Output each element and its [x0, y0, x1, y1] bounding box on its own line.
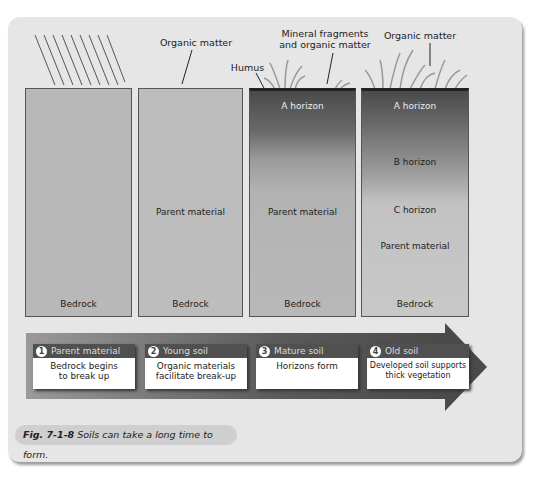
mineral-fragments-line1: Mineral fragments [270, 28, 380, 39]
parent-material-label: Parent material [362, 241, 468, 251]
figure-number: Fig. 7-1-8 [23, 429, 74, 440]
stage-desc-line1: Bedrock begins [33, 361, 135, 371]
stage-number: 1 [36, 346, 47, 357]
stage-desc-line2: facilitate break-up [145, 371, 247, 381]
grass-icon [365, 45, 470, 90]
organic-matter-label-2: Organic matter [375, 30, 465, 41]
bedrock-label: Bedrock [139, 299, 242, 309]
stage-desc-line2: to break up [33, 371, 135, 381]
stage-desc-line1: Organic materials [145, 361, 247, 371]
stage-title: Mature soil [274, 346, 324, 356]
mineral-fragments-label: Mineral fragments and organic matter [270, 28, 380, 50]
a-horizon-label: A horizon [250, 101, 355, 111]
figure-caption: Fig. 7-1-8 Soils can take a long time to… [15, 425, 237, 445]
stage-card-3: 3Mature soil Horizons form [256, 344, 358, 389]
stage-card-1: 1Parent material Bedrock beginsto break … [33, 344, 135, 389]
stage-card-4: 4Old soil Developed soil supportsthick v… [367, 344, 469, 389]
stage-number: 4 [370, 346, 381, 357]
mineral-fragments-line2: and organic matter [270, 39, 380, 50]
stage-desc-line1: Developed soil supports [367, 361, 469, 371]
parent-material-label: Parent material [250, 207, 355, 217]
bedrock-label: Bedrock [26, 299, 131, 309]
parent-material-label: Parent material [139, 207, 242, 217]
stage-desc-line2: thick vegetation [367, 371, 469, 381]
stage-title: Old soil [385, 346, 418, 356]
pointer-line [428, 42, 432, 67]
stage-number: 3 [259, 346, 270, 357]
soil-column-old: A horizon B horizon C horizon Parent mat… [361, 88, 469, 317]
pointer-line [180, 48, 200, 88]
grass-icon [260, 58, 360, 90]
bedrock-label: Bedrock [362, 299, 468, 309]
stage-desc-line1: Horizons form [256, 361, 358, 371]
b-horizon-label: B horizon [362, 157, 468, 167]
soil-column-young: Parent material Bedrock [138, 88, 243, 317]
rain-icon [30, 30, 130, 88]
organic-matter-label: Organic matter [156, 37, 236, 48]
stage-title: Parent material [51, 346, 120, 356]
a-horizon-label: A horizon [362, 101, 468, 111]
stage-number: 2 [148, 346, 159, 357]
stage-title: Young soil [163, 346, 208, 356]
soil-column-mature: A horizon Parent material Bedrock [249, 88, 356, 317]
soil-column-parent-material: Bedrock [25, 88, 132, 317]
pointer-line [325, 52, 335, 87]
c-horizon-label: C horizon [362, 205, 468, 215]
stage-card-2: 2Young soil Organic materialsfacilitate … [145, 344, 247, 389]
bedrock-label: Bedrock [250, 299, 355, 309]
